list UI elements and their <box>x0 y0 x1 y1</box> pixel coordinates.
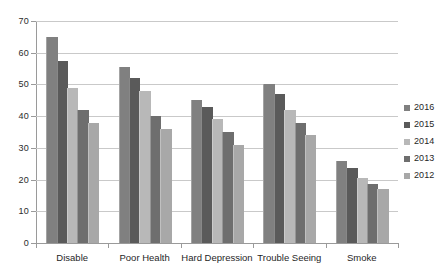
y-tick-mark-40 <box>31 116 36 117</box>
x-tick-mark <box>253 243 254 248</box>
legend-swatch-icon <box>404 122 410 128</box>
gridline-0 <box>36 243 398 244</box>
legend-item-2012[interactable]: 2012 <box>404 167 448 184</box>
legend-label: 2013 <box>414 154 434 163</box>
x-tick-label-smoke: Smoke <box>326 252 398 263</box>
legend-label: 2015 <box>414 120 434 129</box>
bar-group <box>46 21 98 243</box>
y-tick-mark-20 <box>31 180 36 181</box>
legend-item-2015[interactable]: 2015 <box>404 116 448 133</box>
bar[interactable] <box>160 129 171 243</box>
legend-swatch-icon <box>404 156 410 162</box>
y-tick-mark-10 <box>31 211 36 212</box>
y-tick-label-70: 70 <box>3 17 29 26</box>
bar-group <box>191 21 243 243</box>
x-tick-label-disable: Disable <box>36 252 108 263</box>
bar-group <box>263 21 315 243</box>
legend-swatch-icon <box>404 105 410 111</box>
bar[interactable] <box>305 135 316 243</box>
legend-label: 2014 <box>414 137 434 146</box>
y-tick-mark-60 <box>31 53 36 54</box>
y-tick-label-20: 20 <box>3 176 29 185</box>
legend-label: 2012 <box>414 171 434 180</box>
x-tick-label-trouble-seeing: Trouble Seeing <box>253 252 325 263</box>
legend-swatch-icon <box>404 139 410 145</box>
bar-group <box>336 21 388 243</box>
y-tick-mark-30 <box>31 148 36 149</box>
legend: 20162015201420132012 <box>404 99 448 184</box>
x-tick-mark <box>181 243 182 248</box>
bar[interactable] <box>88 123 99 244</box>
y-tick-label-0: 0 <box>3 239 29 248</box>
x-axis-labels: DisablePoor HealthHard DepressionTrouble… <box>36 248 398 268</box>
bar-group <box>119 21 171 243</box>
bar[interactable] <box>377 189 388 243</box>
legend-label: 2016 <box>414 103 434 112</box>
y-tick-label-60: 60 <box>3 49 29 58</box>
y-tick-label-40: 40 <box>3 112 29 121</box>
legend-swatch-icon <box>404 173 410 179</box>
y-tick-label-10: 10 <box>3 207 29 216</box>
x-tick-label-poor-health: Poor Health <box>108 252 180 263</box>
x-tick-mark <box>398 243 399 248</box>
y-tick-mark-50 <box>31 84 36 85</box>
legend-item-2016[interactable]: 2016 <box>404 99 448 116</box>
y-tick-mark-70 <box>31 21 36 22</box>
bar-chart: 010203040506070 DisablePoor HealthHard D… <box>0 0 448 279</box>
bars-layer <box>36 21 398 243</box>
legend-item-2013[interactable]: 2013 <box>404 150 448 167</box>
legend-item-2014[interactable]: 2014 <box>404 133 448 150</box>
y-tick-label-50: 50 <box>3 80 29 89</box>
y-tick-label-30: 30 <box>3 144 29 153</box>
x-tick-label-hard-depression: Hard Depression <box>181 252 253 263</box>
bar[interactable] <box>233 145 244 243</box>
x-tick-mark <box>108 243 109 248</box>
x-tick-mark <box>326 243 327 248</box>
x-tick-mark <box>36 243 37 248</box>
y-axis-labels: 010203040506070 <box>0 0 29 279</box>
